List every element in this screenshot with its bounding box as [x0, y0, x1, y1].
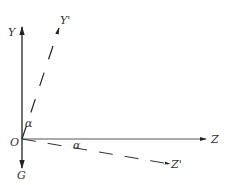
- z-prime-axis: [22, 139, 170, 164]
- upper-angle-label: α: [25, 117, 33, 130]
- origin-label: O: [10, 136, 19, 149]
- y-axis-label: Y: [8, 26, 17, 39]
- lower-angle-label: α: [73, 139, 81, 152]
- coordinate-diagram: Y Y' α O α Z Z' G: [0, 0, 226, 185]
- z-axis-label: Z: [210, 133, 219, 146]
- z-prime-axis-label: Z': [170, 158, 182, 171]
- g-label: G: [17, 169, 26, 182]
- y-prime-axis-label: Y': [60, 14, 70, 27]
